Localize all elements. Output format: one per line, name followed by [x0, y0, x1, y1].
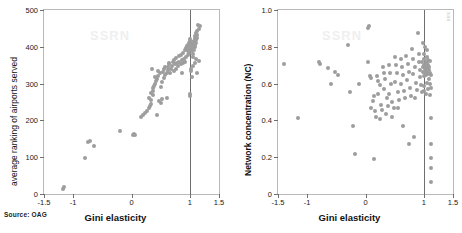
data-point: [387, 92, 391, 96]
data-point: [133, 133, 137, 137]
data-point: [428, 93, 432, 97]
data-point: [429, 116, 433, 120]
data-point: [381, 65, 385, 69]
data-point: [399, 82, 403, 86]
data-point: [329, 82, 333, 86]
data-point: [149, 102, 153, 106]
data-point: [386, 104, 390, 108]
data-point: [149, 98, 153, 102]
data-point: [428, 59, 432, 63]
data-point: [336, 73, 340, 77]
data-point: [296, 116, 300, 120]
data-point: [412, 135, 416, 139]
data-point: [404, 54, 408, 58]
y-tick-label: 500: [25, 6, 38, 15]
scatter-figure: SSRN 0100200300400500-1.5-1011.5 Gini el…: [0, 0, 462, 233]
y-tick: [40, 120, 44, 121]
x-tick-label: -1: [70, 198, 77, 207]
y-tick-label: 300: [25, 79, 38, 88]
data-point: [373, 109, 377, 113]
y-axis-title-left: average ranking of airports served: [9, 57, 19, 186]
data-point: [413, 96, 417, 100]
watermark-text: SSRN: [90, 28, 130, 43]
y-tick-label: 200: [25, 116, 38, 125]
data-point: [425, 48, 429, 52]
chart-panel-left: SSRN 0100200300400500-1.5-1011.5 Gini el…: [0, 0, 231, 233]
x-tick-label: 1.5: [448, 198, 458, 207]
data-point: [384, 112, 388, 116]
y-tick: [274, 120, 278, 121]
data-point: [429, 166, 433, 170]
data-point: [372, 157, 376, 161]
x-tick-label: 1.5: [214, 198, 224, 207]
y-tick-label: 400: [25, 42, 38, 51]
data-point: [382, 87, 386, 91]
x-tick-label: -1.5: [272, 198, 285, 207]
y-tick-label: 0.2: [262, 153, 272, 162]
data-point: [403, 96, 407, 100]
data-point: [183, 60, 187, 64]
x-tick-label: -1.5: [38, 198, 51, 207]
data-point: [195, 71, 199, 75]
x-tick-label: -1: [304, 198, 311, 207]
data-point: [411, 57, 415, 61]
data-point: [415, 88, 419, 92]
data-point: [282, 62, 286, 66]
data-point: [378, 83, 382, 87]
reference-line: [424, 10, 425, 194]
data-point: [376, 79, 380, 83]
data-point: [346, 43, 350, 47]
data-point: [382, 71, 386, 75]
data-point: [416, 31, 420, 35]
y-tick-label: 0.4: [262, 116, 272, 125]
y-tick-label: 1.0: [262, 6, 272, 15]
source-note: Source: OAG: [4, 211, 47, 218]
y-tick-label: 0.8: [262, 42, 272, 51]
data-point: [366, 60, 370, 64]
x-tick-label: 0: [363, 198, 367, 207]
data-point: [396, 90, 400, 94]
data-point: [392, 106, 396, 110]
data-point: [375, 74, 379, 78]
data-point: [417, 52, 421, 56]
data-point: [429, 86, 433, 90]
data-point: [399, 57, 403, 61]
data-point: [411, 72, 415, 76]
data-point: [159, 85, 163, 89]
data-point: [393, 80, 397, 84]
data-point: [318, 62, 322, 66]
data-point: [160, 80, 164, 84]
data-point: [407, 142, 411, 146]
data-point: [180, 71, 184, 75]
data-point: [351, 124, 355, 128]
data-point: [188, 94, 192, 98]
data-point: [88, 139, 92, 143]
data-point: [83, 156, 87, 160]
data-point: [413, 65, 417, 69]
data-point: [396, 106, 400, 110]
side-credit: sas: [446, 12, 452, 22]
data-point: [395, 71, 399, 75]
data-point: [390, 100, 394, 104]
data-point: [429, 180, 433, 184]
watermark-text: SSRN: [322, 28, 362, 43]
data-point: [378, 117, 382, 121]
y-tick: [274, 84, 278, 85]
data-point: [383, 77, 387, 81]
data-point: [371, 99, 375, 103]
data-point: [348, 90, 352, 94]
data-point: [402, 89, 406, 93]
y-tick: [40, 10, 44, 11]
data-point: [326, 66, 330, 70]
data-point: [165, 96, 169, 100]
data-point: [387, 63, 391, 67]
data-point: [118, 129, 122, 133]
data-point: [367, 24, 371, 28]
y-tick-label: 100: [25, 153, 38, 162]
data-point: [196, 23, 200, 27]
data-point: [385, 96, 389, 100]
x-axis-title-right: Gini elasticity: [234, 212, 462, 223]
data-point: [150, 67, 154, 71]
data-point: [410, 47, 414, 51]
data-point: [401, 73, 405, 77]
